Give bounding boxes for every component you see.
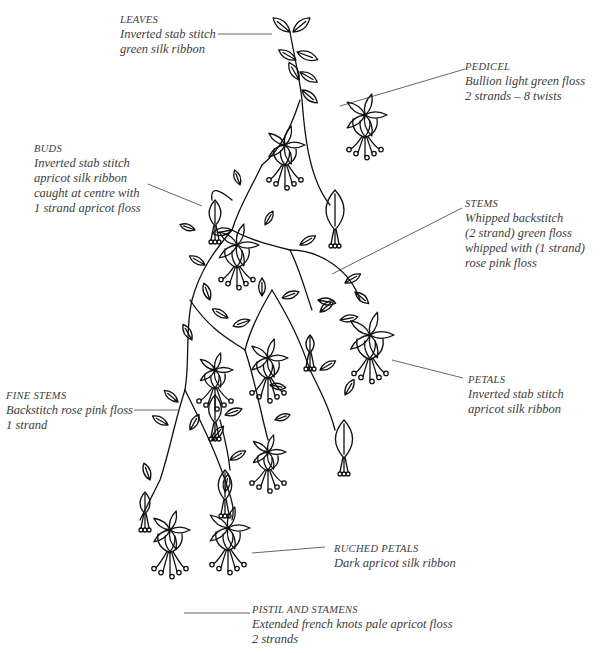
french-knot <box>229 399 233 403</box>
stamen-line <box>156 552 167 568</box>
leaf-shape <box>224 406 243 419</box>
french-knot <box>217 566 221 570</box>
french-knot <box>346 472 350 476</box>
french-knot <box>384 371 388 375</box>
french-knot <box>257 485 261 489</box>
french-knot <box>275 395 279 399</box>
annotation-title: LEAVES <box>120 12 216 27</box>
stamen-line <box>173 552 184 568</box>
leaf-shape <box>286 61 303 82</box>
french-knot <box>204 403 208 407</box>
stem-line <box>310 370 335 430</box>
annotation-ruched-petals: RUCHED PETALS Dark apricot silk ribbon <box>334 541 456 571</box>
petal-shape <box>365 112 387 118</box>
petal-shape <box>268 355 288 361</box>
annotation-title: PISTIL AND STAMENS <box>252 602 453 617</box>
french-knot <box>268 489 272 493</box>
leaf-shape <box>298 233 317 248</box>
petal-shape <box>285 142 305 148</box>
french-knot <box>275 485 279 489</box>
french-knot <box>282 481 286 485</box>
stamen-line <box>226 500 229 514</box>
leader-lines <box>134 34 465 613</box>
petal-shape <box>370 332 394 339</box>
annotation-pedicel: PEDICEL Bullion light green floss 2 stra… <box>465 59 585 104</box>
petal-shape <box>228 525 250 531</box>
annotation-line: Inverted stab stitch <box>120 27 216 42</box>
annotation-line: green silk ribbon <box>120 42 216 57</box>
leader-stems <box>332 208 462 274</box>
french-knot <box>312 367 316 371</box>
french-knot <box>337 244 341 248</box>
leader-petals <box>392 360 463 378</box>
stem-line <box>290 32 330 205</box>
annotation-line: 1 strand <box>6 418 133 433</box>
french-knot <box>217 437 221 441</box>
annotation-title: STEMS <box>465 196 585 211</box>
french-knot <box>170 574 174 578</box>
annotation-line: apricot silk ribbon <box>34 171 141 186</box>
french-knot <box>359 375 363 379</box>
leader-buds <box>148 184 202 206</box>
plant-drawing <box>139 15 394 579</box>
french-knot <box>377 375 381 379</box>
french-knot <box>250 481 254 485</box>
leaf-shape <box>228 448 247 463</box>
petal-shape <box>152 516 171 532</box>
annotation-line: (2 strand) green floss <box>465 226 585 241</box>
annotation-line: apricot silk ribbon <box>468 402 564 417</box>
french-knot <box>285 186 289 190</box>
french-knot <box>352 371 356 375</box>
leader-ruched-petals <box>252 547 325 553</box>
annotation-line: Whipped backstitch <box>465 211 585 226</box>
annotation-line: Dark apricot silk ribbon <box>334 556 456 571</box>
stamen-line <box>340 458 343 472</box>
french-knot <box>235 566 239 570</box>
annotation-line: Inverted stab stitch <box>468 387 564 402</box>
annotation-title: RUCHED PETALS <box>334 541 456 556</box>
french-knot <box>250 391 254 395</box>
annotation-title: PETALS <box>468 372 564 387</box>
french-knot <box>219 277 223 281</box>
leaf-shape <box>296 48 320 63</box>
leaf-shape <box>318 358 337 373</box>
stem-line <box>212 191 232 200</box>
petal-shape <box>349 318 372 338</box>
leaf-shape <box>290 15 312 36</box>
french-knot <box>365 155 369 159</box>
french-knot <box>274 182 278 186</box>
leaf-shape <box>201 282 214 301</box>
leaf-shape <box>298 69 319 86</box>
french-knot <box>379 147 383 151</box>
leaf-shape <box>353 289 371 306</box>
petal-shape <box>237 242 259 248</box>
leaf-shape <box>151 413 170 428</box>
french-knot <box>267 178 271 182</box>
french-knot <box>244 281 248 285</box>
stem-line <box>190 300 245 350</box>
french-knot <box>242 562 246 566</box>
leaf-shape <box>232 317 251 330</box>
stamen-line <box>221 500 224 514</box>
french-knot <box>159 570 163 574</box>
stem-line <box>272 290 310 370</box>
french-knot <box>152 566 156 570</box>
petal-shape <box>170 527 190 533</box>
french-knot <box>197 399 201 403</box>
annotation-line: 2 strands – 8 twists <box>465 89 585 104</box>
leaf-shape <box>342 378 357 397</box>
french-knot <box>370 379 374 383</box>
annotation-line: Backstitch rose pink floss <box>6 403 133 418</box>
annotation-buds: BUDS Inverted stab stitch apricot silk r… <box>34 141 141 216</box>
french-knot <box>354 151 358 155</box>
french-knot <box>228 570 232 574</box>
petal-shape <box>250 344 269 360</box>
french-knot <box>282 391 286 395</box>
leaf-shape <box>188 253 207 268</box>
annotation-line: Extended french knots pale apricot floss <box>252 617 453 632</box>
leaf-shape <box>281 289 300 302</box>
annotation-leaves: LEAVES Inverted stab stitch green silk r… <box>120 12 216 57</box>
petal-shape <box>199 357 217 372</box>
annotation-title: BUDS <box>34 141 141 156</box>
annotation-petals: PETALS Inverted stab stitch apricot silk… <box>468 372 564 417</box>
